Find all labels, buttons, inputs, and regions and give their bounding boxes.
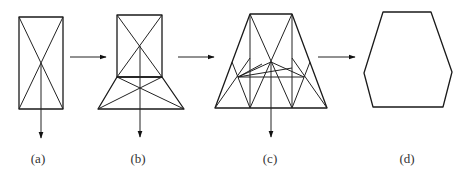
diagram-canvas [0, 0, 460, 177]
panel-a-structure [19, 17, 63, 138]
panel-c-structure [215, 14, 327, 137]
panel-label-d: (d) [399, 151, 414, 167]
panel-label-b: (b) [130, 151, 145, 167]
panel-label-a: (a) [31, 151, 45, 167]
panel-d-hexagon [364, 12, 452, 107]
panel-b-structure [98, 15, 184, 137]
panel-label-c: (c) [263, 151, 277, 167]
